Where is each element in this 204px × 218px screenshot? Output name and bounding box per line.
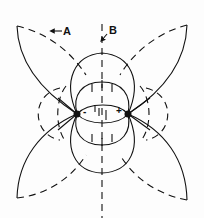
field-diagram-svg [0, 0, 204, 218]
equipotential-right-small [140, 86, 149, 142]
field-line-outer-upper-right [128, 25, 187, 114]
label-B: B [109, 25, 117, 36]
negative-sign: - [83, 107, 86, 117]
equipotential-right-top [120, 25, 187, 75]
equipotential-left-small [58, 86, 66, 142]
charge-positive [125, 111, 132, 118]
positive-sign: + [116, 106, 122, 116]
charge-negative [74, 111, 81, 118]
field-line-outer-lower-left [17, 114, 77, 198]
label-B-pointer [102, 34, 107, 40]
equipotential-left-bottom [17, 155, 86, 198]
field-line-outer-lower-right [128, 114, 187, 200]
label-A: A [63, 26, 71, 37]
field-line-outer-upper-left [17, 26, 77, 114]
equipotential-left-loop [38, 88, 60, 140]
equipotential-right-bottom [120, 155, 187, 200]
dipole-diagram: A B - + [0, 0, 204, 218]
